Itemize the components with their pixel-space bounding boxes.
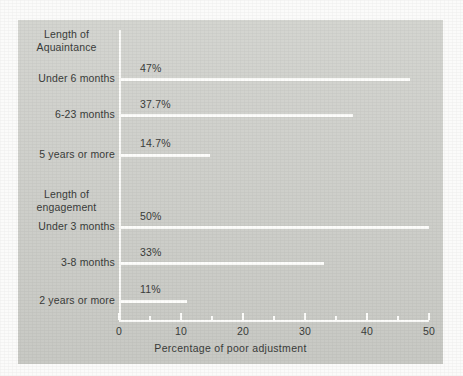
- axis-minor-tick-15: [211, 316, 213, 320]
- group-header-engagement: Length of engagement: [18, 188, 115, 213]
- value-label-47: 47%: [140, 62, 162, 74]
- axis-tick-label-20: 20: [228, 325, 258, 337]
- axis-tick-30: [304, 313, 306, 320]
- value-label-33: 33%: [140, 246, 162, 258]
- axis-tick-20: [242, 313, 244, 320]
- bar-5-years-or-more: [119, 154, 210, 157]
- axis-minor-tick-35: [335, 316, 337, 320]
- bar-2-years-or-more: [119, 300, 187, 303]
- bar-6-23-months: [119, 114, 353, 117]
- axis-minor-tick-5: [149, 316, 151, 320]
- axis-tick-label-40: 40: [352, 325, 382, 337]
- axis-tick-10: [180, 313, 182, 320]
- category-label-3-8-months: 3-8 months: [61, 256, 115, 268]
- category-axis-line: [119, 30, 121, 322]
- value-axis-line: [119, 320, 429, 322]
- bar-3-8-months: [119, 262, 324, 265]
- category-label-6-23-months: 6-23 months: [55, 108, 115, 120]
- axis-tick-label-10: 10: [166, 325, 196, 337]
- x-axis-label: Percentage of poor adjustment: [18, 342, 443, 354]
- bar-under-6-months: [119, 78, 410, 81]
- axis-tick-label-0: 0: [104, 325, 134, 337]
- axis-tick-label-30: 30: [290, 325, 320, 337]
- category-label-under-3-months: Under 3 months: [38, 220, 115, 232]
- category-label-5-years-or-more: 5 years or more: [39, 148, 115, 160]
- value-label-37-7: 37.7%: [140, 98, 171, 110]
- chart-panel: Length of Aquaintance Under 6 months 47%…: [18, 20, 443, 364]
- group-header-line2: Aquaintance: [18, 41, 115, 54]
- axis-tick-40: [366, 313, 368, 320]
- group-header-line1: Length of: [18, 28, 115, 41]
- axis-tick-0: [118, 313, 120, 320]
- axis-minor-tick-45: [397, 316, 399, 320]
- group-header-line2: engagement: [18, 201, 115, 214]
- axis-minor-tick-25: [273, 316, 275, 320]
- group-header-line1: Length of: [18, 188, 115, 201]
- axis-tick-50: [428, 313, 430, 320]
- category-label-under-6-months: Under 6 months: [38, 72, 115, 84]
- axis-tick-label-50: 50: [414, 325, 444, 337]
- page-background: Length of Aquaintance Under 6 months 47%…: [0, 0, 463, 376]
- bar-under-3-months: [119, 226, 429, 229]
- value-label-14-7: 14.7%: [140, 137, 171, 149]
- value-label-50: 50%: [140, 210, 162, 222]
- plot-area: Length of Aquaintance Under 6 months 47%…: [18, 20, 443, 364]
- group-header-acquaintance: Length of Aquaintance: [18, 28, 115, 53]
- category-label-2-years-or-more: 2 years or more: [39, 294, 115, 306]
- value-label-11: 11%: [140, 283, 161, 295]
